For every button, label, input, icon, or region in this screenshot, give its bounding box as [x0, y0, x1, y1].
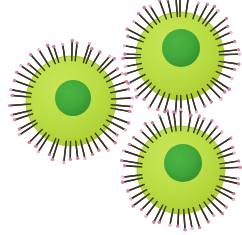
- nucleocapsid-core: [55, 80, 91, 116]
- virus-illustration-figure: [0, 0, 242, 235]
- nucleocapsid-core: [164, 144, 202, 182]
- nucleocapsid-core: [162, 29, 200, 67]
- virus-illustration-canvas: [0, 0, 242, 235]
